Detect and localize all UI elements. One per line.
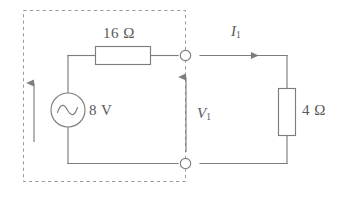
current-subscript: 1 [236, 30, 241, 40]
load-resistor-body [279, 89, 296, 136]
port-voltage-label: V1 [197, 106, 211, 123]
voltage-subscript: 1 [206, 112, 211, 122]
source-voltage-label: 8 V [89, 103, 112, 118]
bottom-terminal-icon [180, 158, 190, 168]
circuit-diagram: 16 Ω 8 V 4 Ω I1 V1 [0, 0, 352, 197]
series-resistor-label: 16 Ω [103, 26, 135, 41]
load-current-label: I1 [231, 24, 241, 41]
load-loop-wires [200, 56, 287, 164]
top-terminal-icon [180, 50, 190, 60]
voltage-symbol: V [197, 105, 206, 121]
series-resistor-body [96, 47, 151, 65]
circuit-schematic-canvas [0, 0, 352, 197]
load-resistor-label: 4 Ω [302, 103, 326, 118]
